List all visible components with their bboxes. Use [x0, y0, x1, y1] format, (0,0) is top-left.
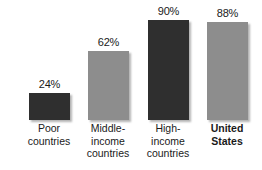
category-label-3-line-1: States [190, 135, 262, 148]
value-label-0: 24% [39, 78, 60, 90]
bar-3 [207, 22, 248, 120]
bar-chart: 24% 62% 90% 88% Poor countries Middle- i… [0, 0, 262, 170]
category-label-2-line-2: countries [131, 147, 205, 160]
category-label-3-line-0: United [190, 122, 262, 135]
value-label-1: 62% [98, 36, 119, 48]
bar-1 [88, 51, 129, 120]
bar-0 [29, 93, 70, 120]
plot-area: 24% 62% 90% 88% [0, 0, 262, 120]
category-labels: Poor countries Middle- income countries … [0, 122, 262, 170]
value-label-2: 90% [158, 5, 179, 17]
bar-2 [148, 20, 189, 120]
category-label-united-states: United States [190, 122, 262, 147]
value-label-3: 88% [217, 7, 238, 19]
